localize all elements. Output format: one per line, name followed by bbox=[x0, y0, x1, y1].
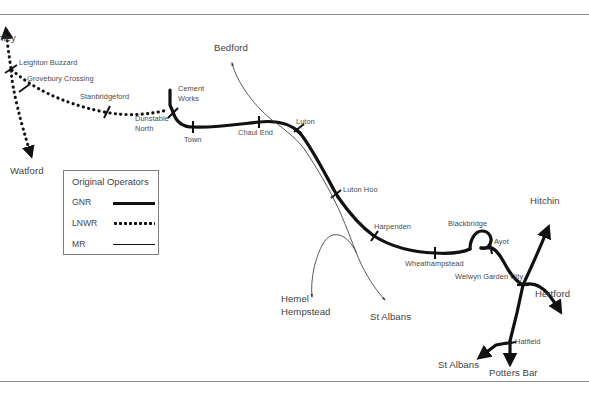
label-hemel-hempstead-line1: Hemel bbox=[281, 293, 309, 304]
label-stanbridgeford: Stanbridgeford bbox=[80, 92, 129, 101]
label-hitchin: Hitchin bbox=[530, 195, 560, 206]
label-watford: Watford bbox=[10, 165, 44, 176]
label-welwyn-garden-city: Welwyn Garden City bbox=[455, 272, 523, 281]
legend-sample-gnr bbox=[113, 202, 155, 205]
gnr-luton-to-luton-hoo bbox=[300, 133, 338, 197]
gnr-hatfield-to-st-albans bbox=[480, 343, 507, 357]
label-town: Town bbox=[184, 135, 201, 144]
label-bedford: Bedford bbox=[214, 42, 248, 53]
legend-key-mr: MR bbox=[72, 239, 85, 249]
tick-ayot bbox=[490, 243, 492, 254]
label-luton-hoo: Luton Hoo bbox=[343, 185, 378, 194]
legend-key-gnr: GNR bbox=[72, 197, 91, 207]
label-luton: Luton bbox=[296, 117, 315, 126]
label-st-albans-gnr: St Albans bbox=[438, 359, 479, 370]
label-cement-works-line2: Works bbox=[178, 94, 199, 103]
label-hemel-hempstead-line2: Hempstead bbox=[281, 306, 331, 317]
legend-title: Original Operators bbox=[72, 176, 149, 187]
gnr-luton-hoo-to-harpenden bbox=[338, 197, 374, 236]
label-harpenden: Harpenden bbox=[374, 222, 411, 231]
gnr-cement-works-branch bbox=[170, 90, 173, 112]
label-dunstable-north-line2: North bbox=[135, 124, 153, 133]
label-blackbridge: Blackbridge bbox=[448, 219, 487, 228]
gnr-route-group bbox=[170, 90, 560, 363]
legend-sample-lnwr bbox=[113, 222, 155, 225]
label-wheathampstead: Wheathampstead bbox=[405, 259, 464, 268]
gnr-welwyn-to-hitchin bbox=[523, 228, 548, 285]
label-ayot: Ayot bbox=[494, 237, 509, 246]
label-chaul-end: Chaul End bbox=[238, 128, 273, 137]
tick-grovebury-crossing bbox=[19, 84, 30, 92]
label-cement-works-line1: Cement bbox=[178, 84, 204, 93]
legend-key-lnwr: LNWR bbox=[72, 218, 97, 228]
gnr-harpenden-to-wheathampstead-to-ayot bbox=[374, 236, 470, 253]
label-dunstable-north-line1: Dunstable bbox=[135, 114, 169, 123]
gnr-blackbridge-loop bbox=[470, 231, 491, 249]
mr-luton-to-harpenden-junction bbox=[305, 150, 356, 252]
legend-sample-mr bbox=[113, 244, 155, 245]
mr-junction-to-hemel-hempstead bbox=[312, 235, 356, 297]
label-hatfield: Hatfield bbox=[515, 337, 540, 346]
label-potters-bar: Potters Bar bbox=[489, 367, 538, 378]
label-st-albans-mr: St Albans bbox=[370, 311, 411, 322]
label-bletchley: hley bbox=[0, 32, 16, 43]
label-grovebury-crossing: Grovebury Crossing bbox=[27, 74, 94, 83]
gnr-welwyn-to-hatfield bbox=[510, 285, 523, 341]
mr-junction-to-st-albans bbox=[356, 252, 385, 300]
label-leighton-buzzard: Leighton Buzzard bbox=[19, 58, 77, 67]
label-hertford: Hertford bbox=[535, 288, 570, 299]
railway-diagram: hley Leighton Buzzard Grovebury Crossing… bbox=[0, 0, 589, 407]
mr-route-group bbox=[232, 63, 385, 300]
